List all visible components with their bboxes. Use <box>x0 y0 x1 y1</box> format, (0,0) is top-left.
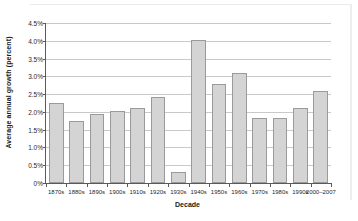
bar <box>313 91 328 183</box>
bar <box>273 118 288 183</box>
x-tick-mark <box>311 183 312 187</box>
x-axis-title: Decade <box>45 201 330 208</box>
x-tick-label: 2000–2007 <box>306 189 336 195</box>
y-tick-label: 3.5% <box>28 55 43 62</box>
y-tick-label: 3.0% <box>28 73 43 80</box>
bar <box>110 111 125 183</box>
x-tick-label: 1910s <box>129 189 145 195</box>
y-tick-label: 2.5% <box>28 91 43 98</box>
x-tick-label: 1890s <box>89 189 105 195</box>
x-tick-label: 1960s <box>231 189 247 195</box>
bar <box>90 114 105 183</box>
bar <box>49 103 64 183</box>
bar-chart-figure: Average annual growth (percent) 0%0.5%1.… <box>0 0 358 221</box>
plot-area: 0%0.5%1.0%1.5%2.0%2.5%3.0%3.5%4.0%4.5% 1… <box>45 23 331 184</box>
y-axis-title: Average annual growth (percent) <box>0 0 16 185</box>
x-tick-mark <box>290 183 291 187</box>
x-tick-label: 1930s <box>170 189 186 195</box>
y-tick-label: 0% <box>34 180 43 187</box>
x-tick-mark <box>168 183 169 187</box>
y-tick-label: 1.5% <box>28 126 43 133</box>
x-tick-label: 1970s <box>252 189 268 195</box>
x-tick-mark <box>107 183 108 187</box>
x-tick-label: 1880s <box>68 189 84 195</box>
x-tick-label: 1950s <box>211 189 227 195</box>
x-tick-mark <box>66 183 67 187</box>
x-tick-mark <box>148 183 149 187</box>
bar <box>151 97 166 183</box>
x-tick-label: 1940s <box>190 189 206 195</box>
y-tick-label: 4.5% <box>28 20 43 27</box>
x-tick-mark <box>250 183 251 187</box>
bar <box>191 40 206 183</box>
y-tick-label: 0.5% <box>28 162 43 169</box>
y-axis-title-text: Average annual growth (percent) <box>5 36 12 148</box>
bar <box>69 121 84 183</box>
x-tick-mark <box>331 183 332 187</box>
bar <box>171 172 186 183</box>
x-tick-label: 1980s <box>272 189 288 195</box>
bars <box>46 23 331 183</box>
bar <box>252 118 267 183</box>
x-tick-label: 1900s <box>109 189 125 195</box>
bar <box>130 108 145 183</box>
x-tick-mark <box>189 183 190 187</box>
bar <box>232 73 247 183</box>
x-tick-mark <box>209 183 210 187</box>
x-tick-mark <box>270 183 271 187</box>
y-tick-label: 1.0% <box>28 144 43 151</box>
x-tick-mark <box>127 183 128 187</box>
y-tick-label: 4.0% <box>28 37 43 44</box>
bar <box>293 108 308 183</box>
x-tick-label: 1870s <box>48 189 64 195</box>
y-tick-label: 2.0% <box>28 108 43 115</box>
x-tick-mark <box>46 183 47 187</box>
x-tick-mark <box>229 183 230 187</box>
bar <box>212 84 227 183</box>
x-tick-label: 1920s <box>150 189 166 195</box>
x-tick-mark <box>87 183 88 187</box>
